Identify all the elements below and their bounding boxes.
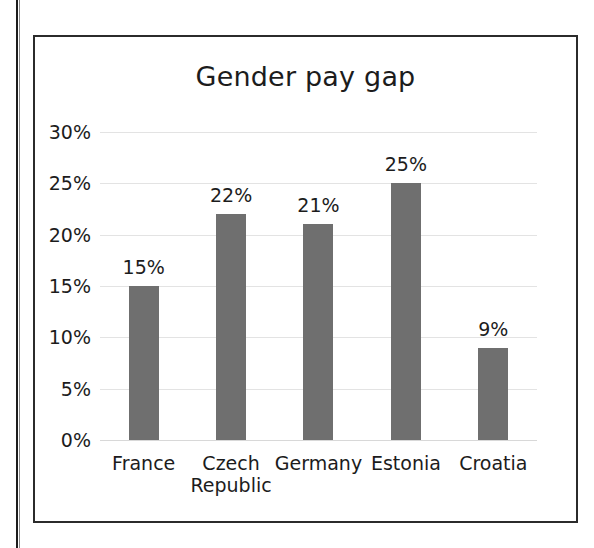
plot-area: 30%25%20%15%10%5%0% 15%France22%CzechRep… (100, 132, 537, 440)
bar-value-label: 25% (385, 153, 427, 175)
x-axis-category-line: France (112, 452, 175, 474)
y-tick-label: 30% (49, 121, 91, 143)
chart-title: Gender pay gap (35, 61, 576, 92)
x-axis-category-line: Republic (190, 474, 271, 496)
x-axis-category-line: Croatia (459, 452, 527, 474)
bar-group: 9%Croatia (450, 132, 537, 440)
chart-frame: Gender pay gap 30%25%20%15%10%5%0% 15%Fr… (33, 35, 578, 523)
bar[interactable] (216, 214, 246, 440)
chart-canvas: Gender pay gap 30%25%20%15%10%5%0% 15%Fr… (35, 37, 576, 521)
x-axis-category-label: Estonia (371, 452, 441, 474)
x-axis-category-label: France (112, 452, 175, 474)
bar[interactable] (478, 348, 508, 440)
x-axis-category-line: Germany (275, 452, 362, 474)
bar-group: 25%Estonia (362, 132, 449, 440)
bar[interactable] (129, 286, 159, 440)
x-axis-category-label: Germany (275, 452, 362, 474)
page-edge-artifact-shadow (19, 0, 20, 548)
bar-group: 22%CzechRepublic (187, 132, 274, 440)
bar-value-label: 15% (123, 256, 165, 278)
y-tick-label: 15% (49, 275, 91, 297)
y-tick-label: 5% (61, 378, 91, 400)
bar[interactable] (391, 183, 421, 440)
page-edge-artifact (16, 0, 18, 548)
y-tick-label: 25% (49, 172, 91, 194)
bar-value-label: 22% (210, 184, 252, 206)
x-axis-category-line: Czech (202, 452, 259, 474)
bar-value-label: 21% (297, 194, 339, 216)
y-tick-label: 0% (61, 429, 91, 451)
screenshot-root: Gender pay gap 30%25%20%15%10%5%0% 15%Fr… (0, 0, 594, 548)
bars-group: 15%France22%CzechRepublic21%Germany25%Es… (100, 132, 537, 440)
y-tick-label: 10% (49, 326, 91, 348)
gridline-0 (100, 440, 537, 441)
bar-group: 15%France (100, 132, 187, 440)
x-axis-category-label: Croatia (459, 452, 527, 474)
x-axis-category-label: CzechRepublic (190, 452, 271, 497)
y-tick-label: 20% (49, 224, 91, 246)
bar-group: 21%Germany (275, 132, 362, 440)
bar-value-label: 9% (478, 318, 508, 340)
bar[interactable] (303, 224, 333, 440)
x-axis-category-line: Estonia (371, 452, 441, 474)
